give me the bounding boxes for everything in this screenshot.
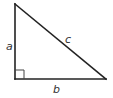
right-angle-marker [15,70,24,79]
side-c-hypotenuse [15,4,106,79]
label-c: c [65,33,71,46]
right-triangle-diagram: a b c [0,0,113,98]
label-a: a [6,40,13,53]
label-b: b [53,83,60,96]
